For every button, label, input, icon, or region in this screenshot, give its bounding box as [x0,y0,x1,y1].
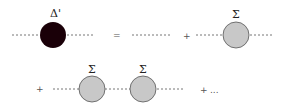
dressed-propagator-blob [40,22,66,48]
self-energy-blob [79,76,105,102]
plus-sign-1: + [183,31,191,41]
sigma-label: Σ [88,63,96,76]
self-energy-blob [223,22,249,48]
dressed-propagator: Δ' [12,7,93,48]
one-self-energy-term: Σ [196,8,273,48]
sigma-label: Σ [139,63,147,76]
plus-sign-3: + [200,85,208,95]
plus-sign-2: + [36,84,44,94]
equals-sign: = [113,30,121,40]
self-energy-blob [130,76,156,102]
two-self-energy-term: Σ Σ [53,63,183,102]
ellipsis: ... [210,85,219,95]
sigma-label: Σ [232,8,240,21]
dyson-equation-diagram: Δ' = + Σ + Σ Σ + ... [0,0,284,109]
delta-prime-label: Δ' [50,7,61,20]
